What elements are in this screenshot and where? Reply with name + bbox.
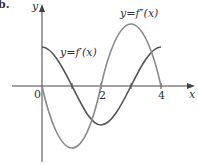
y-axis-arrow-icon [39,4,45,12]
f-double-prime-label: y=f″(x) [119,7,158,20]
x-axis-label: x [189,88,196,101]
origin-label: 0 [34,88,41,101]
tick-label-4: 4 [158,89,165,102]
f-prime-label: y=f′(x) [59,46,97,59]
y-axis-label: y [31,0,39,13]
tick-label-2: 2 [99,89,106,102]
panel-label: b. [0,0,10,11]
graph: b. y x 0 2 4 y=f′(x) y=f″(x) [0,0,198,165]
